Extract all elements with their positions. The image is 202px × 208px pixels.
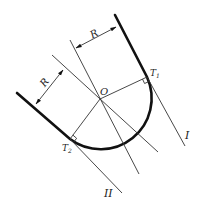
offset-line-1 — [70, 40, 139, 174]
radius-label-top: R — [87, 27, 100, 41]
tangent-point-2-label: T2 — [62, 143, 72, 154]
line-1-label: I — [184, 129, 190, 142]
radius-to-t2 — [70, 99, 100, 139]
dimension-r-left — [36, 70, 63, 104]
line-2-label: II — [103, 187, 113, 200]
tangent-point-1-label: T1 — [150, 68, 160, 79]
line-1-extension — [147, 77, 185, 146]
fillet-construction-diagram: R R O T1 T2 I II — [0, 0, 202, 208]
center-label: O — [100, 86, 108, 97]
